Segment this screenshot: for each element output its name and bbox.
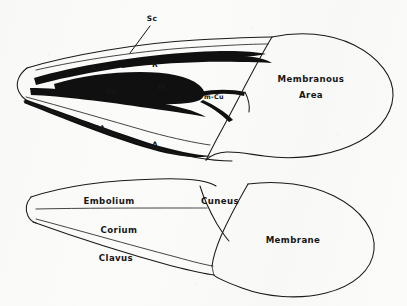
label-membrane: Membrane (266, 235, 321, 245)
wing-base-margin (17, 68, 27, 100)
label-a: A (152, 140, 158, 149)
label-sc: Sc (147, 14, 158, 23)
label-membranous-area-line1: Membranous (278, 74, 345, 84)
label-membranous-area-line2: Area (299, 90, 323, 100)
sc-leader-line (130, 26, 150, 53)
label-clavus: Clavus (99, 253, 133, 263)
upper-wing-group: Sc R+M R M Cu m-Cu 1A A Membranous Area (17, 14, 393, 161)
label-corium: Corium (101, 225, 138, 235)
cuneus-left-boundary (200, 186, 229, 241)
label-r: R (152, 60, 158, 69)
wing-diagram-svg: Sc R+M R M Cu m-Cu 1A A Membranous Area (0, 0, 407, 306)
label-r-plus-m: R+M (91, 64, 109, 72)
anal-vein (24, 99, 212, 157)
label-cuneus: Cuneus (201, 196, 239, 206)
lower-wing-base (26, 197, 36, 223)
label-m: M (158, 83, 166, 92)
m-cu-cell-right-edge (245, 92, 249, 112)
label-1a: 1A (95, 124, 105, 132)
label-embolium: Embolium (83, 196, 134, 206)
label-cu: Cu (106, 87, 118, 96)
embolium-boundary-line (36, 208, 207, 209)
lower-diagram-labels: Embolium Cuneus Corium Clavus Membrane (83, 196, 320, 263)
label-m-cu: m-Cu (204, 93, 224, 101)
lower-wing-group: Embolium Cuneus Corium Clavus Membrane (26, 179, 374, 297)
figure-root: Sc R+M R M Cu m-Cu 1A A Membranous Area (0, 0, 407, 306)
lower-costal-margin (31, 179, 216, 197)
clavus-membrane-junction (212, 266, 214, 275)
